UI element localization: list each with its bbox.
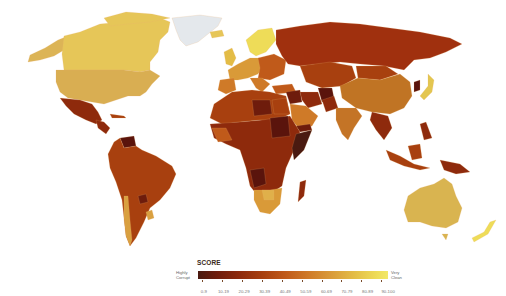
region-philippines [420, 122, 432, 140]
legend-tick [361, 280, 362, 282]
score-legend: SCORE Highly Corrupt Very Clean 0-9 10-1… [170, 259, 430, 296]
legend-tick [242, 280, 243, 282]
region-korea [414, 80, 420, 92]
legend-range-label: 70-79 [341, 289, 352, 294]
world-choropleth-map [0, 0, 506, 250]
region-usa [56, 70, 160, 104]
legend-range-label: 30-39 [259, 289, 270, 294]
region-uk [224, 48, 236, 66]
region-iberia [218, 78, 236, 94]
region-png [440, 160, 470, 174]
legend-range-labels: 0-9 10-19 20-29 30-39 40-49 50-59 60-69 … [198, 289, 394, 296]
region-south-america [108, 138, 176, 246]
region-eastern-europe [258, 54, 286, 80]
legend-right-line2: Clean [391, 276, 413, 281]
legend-tick [302, 280, 303, 282]
legend-range-label: 80-89 [362, 289, 373, 294]
region-libya [252, 100, 272, 116]
region-alaska [28, 36, 68, 62]
legend-tick [381, 280, 382, 282]
legend-range-label: 40-49 [280, 289, 291, 294]
legend-range-label: 20-29 [239, 289, 250, 294]
region-indonesia [386, 150, 430, 170]
legend-range-label: 60-69 [321, 289, 332, 294]
legend-very-clean-label: Very Clean [391, 271, 413, 280]
region-iceland [210, 30, 224, 38]
legend-tick [222, 280, 223, 282]
region-tasmania [442, 234, 448, 240]
region-madagascar [298, 180, 306, 202]
region-paraguay [138, 194, 148, 204]
legend-tick [341, 280, 342, 282]
legend-left-line2: Corrupt [176, 276, 198, 281]
region-greenland [172, 15, 222, 46]
legend-range-label: 10-19 [218, 289, 229, 294]
region-borneo [408, 144, 422, 160]
legend-tick [262, 280, 263, 282]
region-uruguay [146, 210, 154, 220]
region-australia [404, 178, 462, 228]
region-botswana [262, 190, 274, 200]
legend-tick [202, 280, 203, 282]
region-caribbean [110, 114, 126, 118]
region-se-asia [370, 112, 392, 140]
region-india [336, 108, 362, 140]
region-scandinavia [246, 28, 276, 56]
legend-tick [282, 280, 283, 282]
region-iraq-syria [286, 90, 302, 104]
region-canada [62, 18, 170, 72]
legend-title: SCORE [197, 259, 221, 266]
legend-tick [322, 280, 323, 282]
region-egypt [272, 98, 290, 114]
region-sudan [270, 116, 290, 138]
region-italy-balkans [250, 78, 270, 92]
legend-color-gradient [198, 271, 388, 279]
legend-range-label: 90-100 [381, 289, 394, 294]
region-japan [420, 74, 434, 100]
region-central-america [96, 120, 110, 134]
legend-range-label: 50-59 [300, 289, 311, 294]
legend-highly-corrupt-label: Highly Corrupt [176, 271, 198, 280]
legend-range-label: 0-9 [201, 289, 207, 294]
region-russia [276, 22, 462, 70]
legend-ticks [198, 280, 388, 282]
region-new-zealand [472, 220, 496, 242]
